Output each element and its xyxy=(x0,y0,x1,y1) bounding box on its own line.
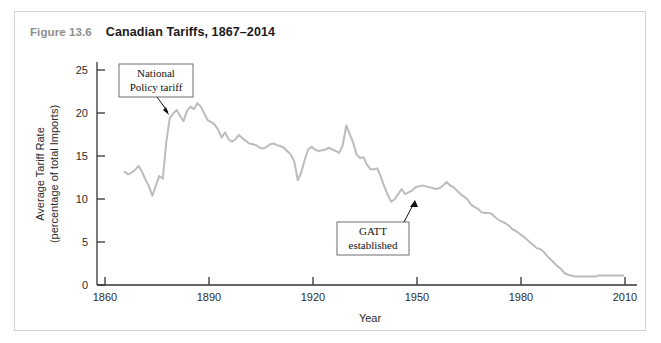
y-axis-title-line2: (percentage of total Imports) xyxy=(48,105,60,243)
annotation-national-policy-line1: National xyxy=(137,67,175,79)
annotation-gatt-line1: GATT xyxy=(359,225,387,237)
y-tick-label-10: 10 xyxy=(76,193,88,205)
x-tick-label-1980: 1980 xyxy=(509,291,533,303)
x-tick-label-1890: 1890 xyxy=(197,291,221,303)
y-tick-label-20: 20 xyxy=(76,107,88,119)
annotation-national-policy-line2: Policy tariff xyxy=(130,81,183,93)
annotation-national-policy: National Policy tariff xyxy=(119,64,193,115)
tariff-line-chart: 25 20 15 10 5 0 1860 1890 1920 1950 1980… xyxy=(0,0,661,343)
annotation-gatt-line2: established xyxy=(349,239,398,251)
x-tick-label-2010: 2010 xyxy=(613,291,637,303)
y-axis-title-line1: Average Tariff Rate xyxy=(34,127,46,221)
x-tick-label-1860: 1860 xyxy=(93,291,117,303)
annotation-gatt-arrowhead xyxy=(410,200,418,207)
annotation-national-policy-arrowhead xyxy=(163,107,169,115)
y-axis-ticks xyxy=(97,70,105,285)
y-tick-label-15: 15 xyxy=(76,150,88,162)
annotation-gatt: GATT established xyxy=(337,200,418,255)
x-tick-label-1950: 1950 xyxy=(405,291,429,303)
y-tick-label-5: 5 xyxy=(82,236,88,248)
figure-container: Figure 13.6 Canadian Tariffs, 1867–2014 … xyxy=(0,0,661,343)
y-tick-label-25: 25 xyxy=(76,64,88,76)
x-axis-title: Year xyxy=(359,312,382,324)
x-tick-label-1920: 1920 xyxy=(301,291,325,303)
y-tick-label-0: 0 xyxy=(82,279,88,291)
x-axis-ticks xyxy=(105,277,625,285)
